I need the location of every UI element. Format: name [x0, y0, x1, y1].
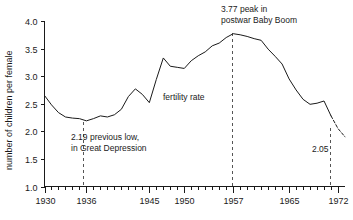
- x-tick-label: 1945: [139, 196, 159, 206]
- y-axis-ticks: [41, 22, 45, 188]
- y-tick-label: 2.5: [25, 100, 38, 110]
- low-annotation-line-1: 2.19 previous low,: [71, 132, 139, 142]
- final-annotation-value: 2.05: [312, 144, 329, 154]
- x-axis-tick-labels: 1930193619451950195719651972: [35, 196, 348, 206]
- y-tick-label: 2.0: [25, 127, 38, 137]
- x-tick-label: 1972: [328, 196, 348, 206]
- peak-annotation-line-2: postwar Baby Boom: [221, 15, 297, 25]
- axes: [45, 21, 346, 187]
- chart-page: 1.01.52.02.53.03.54.0 193019361945195019…: [0, 0, 353, 220]
- final-annotation: 2.05: [312, 144, 329, 154]
- series-label: fertility rate: [163, 92, 205, 102]
- fertility-rate-chart: 1.01.52.02.53.03.54.0 193019361945195019…: [0, 0, 353, 220]
- y-tick-label: 1.5: [25, 155, 38, 165]
- y-tick-label: 3.0: [25, 72, 38, 82]
- low-annotation: 2.19 previous low, in Great Depression: [71, 132, 147, 153]
- fertility-rate-line-projected: [331, 116, 345, 137]
- x-tick-label: 1930: [35, 196, 55, 206]
- low-annotation-line-2: in Great Depression: [71, 143, 147, 153]
- x-tick-label: 1965: [279, 196, 299, 206]
- x-axis-ticks: [46, 187, 339, 193]
- fertility-rate-line: [45, 34, 332, 121]
- y-axis-tick-labels: 1.01.52.02.53.03.54.0: [25, 17, 38, 193]
- y-axis-title: number of children per female: [4, 50, 14, 170]
- x-tick-label: 1936: [76, 196, 96, 206]
- x-tick-label: 1950: [174, 196, 194, 206]
- y-tick-label: 4.0: [25, 17, 38, 27]
- y-tick-label: 1.0: [25, 183, 38, 193]
- peak-annotation-line-1: 3.77 peak in: [221, 4, 268, 14]
- x-tick-label: 1957: [223, 196, 243, 206]
- y-tick-label: 3.5: [25, 45, 38, 55]
- peak-annotation: 3.77 peak in postwar Baby Boom: [221, 4, 297, 25]
